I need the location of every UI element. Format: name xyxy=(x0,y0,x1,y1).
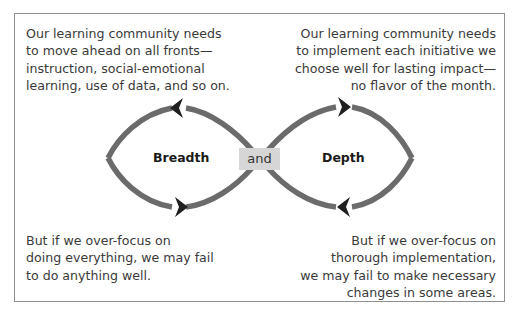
arrow-left-top-icon xyxy=(170,98,183,118)
breadth-label: Breadth xyxy=(153,150,209,165)
and-label: and xyxy=(239,148,280,170)
arrow-right-top-icon xyxy=(338,97,351,117)
arrow-left-bottom-icon xyxy=(175,197,188,217)
depth-label: Depth xyxy=(322,150,365,165)
arrow-right-bottom-icon xyxy=(337,197,350,217)
